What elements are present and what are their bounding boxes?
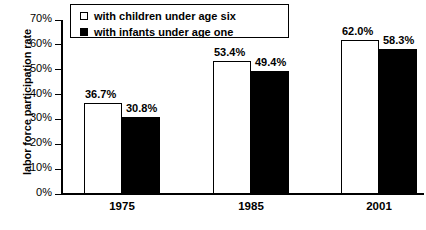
y-axis-tick-label: 30% (12, 111, 52, 123)
y-axis-tick-label: 50% (12, 62, 52, 74)
bar-value-label: 36.7% (85, 88, 116, 100)
y-axis-tick (55, 169, 62, 170)
legend-item-infants: with infants under age one (80, 24, 288, 39)
y-axis-tick-label: 10% (12, 161, 52, 173)
bar-2001-infants[interactable] (379, 49, 417, 194)
y-axis-tick (55, 94, 62, 95)
x-axis-category-1985: 1985 (211, 200, 291, 212)
legend-swatch-light-icon (80, 12, 88, 20)
x-axis-category-1975: 1975 (82, 200, 162, 212)
y-axis-tick-label: 0% (12, 186, 52, 198)
bar-value-label: 49.4% (255, 56, 286, 68)
bar-1985-infants[interactable] (251, 71, 289, 194)
y-axis-tick (55, 119, 62, 120)
y-axis-tick-label: 70% (12, 12, 52, 24)
bar-1975-children[interactable] (84, 103, 122, 194)
bar-1975-infants[interactable] (122, 117, 160, 194)
y-axis-tick-label: 20% (12, 136, 52, 148)
bar-chart: labor force participation rate 70%60%50%… (0, 0, 426, 230)
bar-value-label: 30.8% (126, 102, 157, 114)
y-axis-tick (55, 144, 62, 145)
bar-value-label: 62.0% (342, 25, 373, 37)
y-axis-tick (55, 194, 62, 195)
legend-swatch-dark-icon (80, 28, 88, 36)
y-axis-tick (55, 20, 62, 21)
y-axis-tick-label: 60% (12, 37, 52, 49)
bar-2001-children[interactable] (341, 40, 379, 194)
y-axis-tick (55, 69, 62, 70)
legend-item-children: with children under age six (80, 8, 288, 23)
legend: with children under age six with infants… (70, 4, 289, 38)
y-axis-tick (55, 44, 62, 45)
bar-value-label: 53.4% (214, 46, 245, 58)
bar-1985-children[interactable] (213, 61, 251, 194)
y-axis-tick-label: 40% (12, 87, 52, 99)
legend-label-infants: with infants under age one (94, 26, 233, 38)
legend-label-children: with children under age six (94, 10, 236, 22)
x-axis-category-2001: 2001 (339, 200, 419, 212)
bar-value-label: 58.3% (383, 34, 414, 46)
